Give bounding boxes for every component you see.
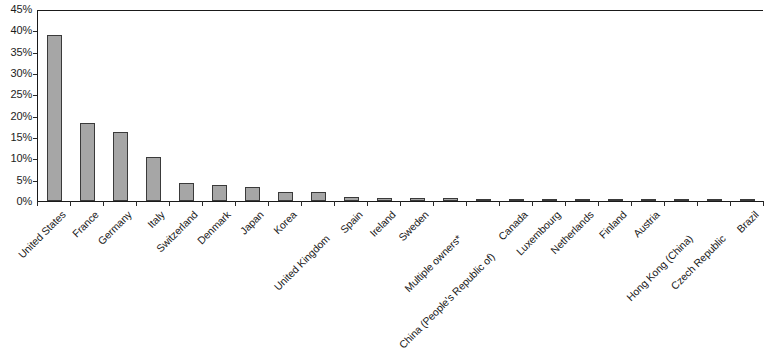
x-tick-mark xyxy=(70,201,71,206)
x-axis-label: Brazil xyxy=(734,209,760,235)
x-tick-mark xyxy=(37,201,38,206)
x-tick-mark xyxy=(532,201,533,206)
x-axis-label: Japan xyxy=(238,209,266,237)
bar xyxy=(245,187,261,201)
x-tick-mark xyxy=(202,201,203,206)
x-tick-mark xyxy=(136,201,137,206)
x-tick-mark xyxy=(598,201,599,206)
x-axis-label: Spain xyxy=(338,209,364,235)
x-tick-mark xyxy=(400,201,401,206)
x-tick-mark xyxy=(730,201,731,206)
y-tick-label: 40% xyxy=(11,25,32,36)
y-axis: 45%40%35%30%25%20%15%10%5%0% xyxy=(0,0,36,210)
y-tick-label: 20% xyxy=(11,111,32,122)
y-tick-label: 10% xyxy=(11,153,32,164)
x-axis-labels: United StatesFranceGermanyItalySwitzerla… xyxy=(37,207,766,310)
x-tick-mark xyxy=(169,201,170,206)
bar xyxy=(113,132,129,201)
x-tick-mark xyxy=(697,201,698,206)
y-tick-label: 45% xyxy=(11,4,32,15)
x-tick-mark xyxy=(499,201,500,206)
x-tick-mark xyxy=(235,201,236,206)
x-tick-mark xyxy=(631,201,632,206)
plot-area xyxy=(37,10,763,202)
bar xyxy=(212,185,228,201)
x-tick-mark xyxy=(367,201,368,206)
x-axis-label: Korea xyxy=(271,209,298,236)
x-tick-mark xyxy=(268,201,269,206)
x-tick-mark xyxy=(664,201,665,206)
y-tick-label: 5% xyxy=(17,175,33,186)
x-tick-mark xyxy=(334,201,335,206)
x-axis-label: Denmark xyxy=(195,209,232,246)
x-tick-mark xyxy=(565,201,566,206)
bar xyxy=(80,123,96,201)
y-tick-label: 30% xyxy=(11,68,32,79)
bar xyxy=(179,183,195,201)
x-axis-label: Sweden xyxy=(396,209,430,243)
x-tick-mark xyxy=(763,201,764,206)
bar xyxy=(311,192,327,201)
bar xyxy=(47,35,63,201)
y-tick-label: 15% xyxy=(11,132,32,143)
x-tick-mark xyxy=(103,201,104,206)
y-tick-label: 0% xyxy=(17,196,33,207)
x-axis-label: Ireland xyxy=(367,209,397,239)
x-tick-mark xyxy=(433,201,434,206)
x-axis-label: Italy xyxy=(145,209,166,230)
y-tick-label: 25% xyxy=(11,89,32,100)
y-tick-label: 35% xyxy=(11,47,32,58)
bar xyxy=(278,192,294,201)
x-axis-label: United Kingdom xyxy=(272,233,332,293)
x-tick-mark xyxy=(466,201,467,206)
bar xyxy=(146,157,162,201)
bars-layer xyxy=(38,11,763,201)
x-axis-label: Germany xyxy=(95,209,133,247)
x-axis-label: China (People's Republic of) xyxy=(397,251,497,351)
x-axis-label: Austria xyxy=(631,209,661,239)
x-axis-label: Finland xyxy=(597,209,629,241)
x-tick-mark xyxy=(301,201,302,206)
x-axis-label: France xyxy=(70,209,100,239)
x-axis-label: United States xyxy=(16,209,67,260)
